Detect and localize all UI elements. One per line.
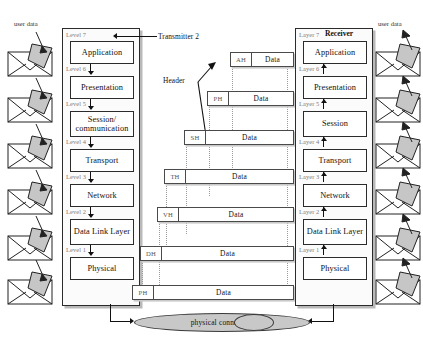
transmitter-downlink-line [110, 304, 111, 322]
transmitter-layer-physical[interactable]: Physical [70, 257, 134, 280]
receiver-arrow-6-7 [320, 64, 327, 74]
transmitter-level-label-1: Level 1 [66, 246, 86, 253]
transmitter-layer-session[interactable]: Session/ communication [70, 111, 134, 137]
receiver-title: Receiver [325, 29, 353, 38]
transmitter-arrow-2-1 [87, 245, 94, 255]
receiver-envelope-column [370, 28, 423, 313]
pdu-header-vh: VH [158, 208, 179, 221]
receiver-layer-session[interactable]: Session [303, 111, 367, 137]
receiver-level-label-7: Layer 7 [299, 31, 319, 38]
receiver-uplink-horizontal [312, 321, 334, 322]
pdu-header-sh: SH [185, 131, 206, 144]
receiver-layer-network[interactable]: Network [303, 184, 367, 207]
transmitter-arrow-3-2 [87, 207, 94, 217]
pdu-data-dh: Data [162, 247, 293, 260]
transmitter-layer-network[interactable]: Network [70, 184, 134, 207]
pdu-header-ph-presentation: PH [208, 92, 229, 105]
receiver-level-label-2: Layer 2 [299, 208, 319, 215]
pdu-header-dh: DH [141, 247, 162, 260]
transmitter-arrow-6-5 [87, 99, 94, 109]
transmitter-level-label-4: Level 4 [66, 138, 86, 145]
pdu-datalink[interactable]: DH Data [140, 246, 294, 261]
transmitter-leader-line [117, 36, 157, 37]
pdu-transport[interactable]: TH Data [164, 169, 294, 184]
pdu-header-th: TH [165, 170, 186, 183]
receiver-uplink-line [333, 304, 334, 322]
pdu-data-ph-presentation: Data [229, 92, 293, 105]
pdu-data-sh: Data [206, 131, 293, 144]
transmitter-leader-arrowhead [113, 33, 117, 39]
receiver-arrow-4-5 [320, 137, 327, 147]
pdu-application[interactable]: AH Data [230, 52, 294, 67]
receiver-layer-application[interactable]: Application [303, 41, 367, 64]
receiver-arrow-2-3 [320, 207, 327, 217]
transmitter-level-label-5: Level 5 [66, 100, 86, 107]
transmitter-envelope-column [0, 28, 70, 313]
receiver-arrow-1-2 [320, 245, 327, 255]
physical-connection-inner-ellipse [234, 314, 274, 331]
receiver-level-label-3: Layer 3 [299, 173, 319, 180]
osi-encapsulation-diagram: user data [0, 0, 423, 343]
transmitter-title: Transmitter 2 [158, 32, 199, 41]
pdu-data-ah: Data [252, 53, 293, 66]
receiver-layer-datalink[interactable]: Data Link Layer [303, 219, 367, 245]
pdu-data-vh: Data [179, 208, 293, 221]
receiver-layer-physical[interactable]: Physical [303, 257, 367, 280]
transmitter-arrow-5-4 [87, 137, 94, 147]
receiver-user-data-label: user data [378, 20, 402, 27]
transmitter-downlink-horizontal [110, 321, 132, 322]
receiver-arrow-5-6 [320, 99, 327, 109]
transmitter-level-label-3: Level 3 [66, 173, 86, 180]
receiver-layer-transport[interactable]: Transport [303, 149, 367, 172]
transmitter-layer-datalink[interactable]: Data Link Layer [70, 219, 134, 245]
transmitter-layer-transport[interactable]: Transport [70, 149, 134, 172]
receiver-level-label-1: Layer 1 [299, 246, 319, 253]
pdu-header-ph-physical: PH [133, 286, 154, 299]
pdu-physical[interactable]: PH Data [132, 285, 294, 300]
pdu-data-ph-physical: Data [154, 286, 293, 299]
pdu-header-ah: AH [231, 53, 252, 66]
transmitter-level-label-7: Level 7 [66, 31, 86, 38]
transmitter-level-label-6: Level 6 [66, 65, 86, 72]
receiver-layer-presentation[interactable]: Presentation [303, 76, 367, 99]
transmitter-user-data-label: user data [14, 20, 38, 27]
pdu-session[interactable]: SH Data [184, 130, 294, 145]
transmitter-arrow-4-3 [87, 172, 94, 182]
pdu-dotline-1 [232, 58, 233, 178]
pdu-data-th: Data [186, 170, 293, 183]
pdu-presentation[interactable]: PH Data [207, 91, 294, 106]
transmitter-layer-application[interactable]: Application [70, 41, 134, 64]
receiver-arrow-3-4 [320, 172, 327, 182]
pdu-network[interactable]: VH Data [157, 207, 294, 222]
receiver-level-label-6: Layer 6 [299, 65, 319, 72]
transmitter-level-label-2: Level 2 [66, 208, 86, 215]
transmitter-layer-presentation[interactable]: Presentation [70, 76, 134, 99]
physical-connection-ellipse[interactable]: physical connection [134, 313, 310, 332]
transmitter-arrow-7-6 [87, 64, 94, 74]
receiver-level-label-5: Layer 5 [299, 100, 319, 107]
receiver-level-label-4: Layer 4 [299, 138, 319, 145]
